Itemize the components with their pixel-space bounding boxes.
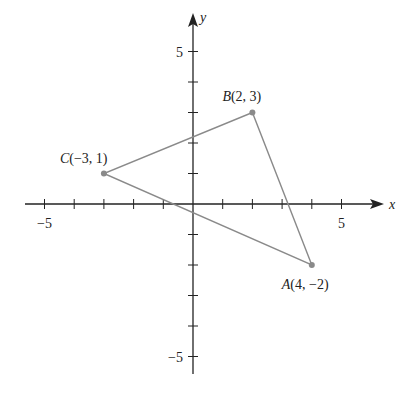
triangle-abc <box>101 110 315 269</box>
point-c <box>101 171 107 177</box>
axes <box>25 13 384 374</box>
x-tick-label-neg5: −5 <box>37 216 52 231</box>
point-label-b: B(2, 3) <box>222 89 261 105</box>
y-tick-label-neg5: −5 <box>168 350 183 365</box>
coordinate-plane: −555−5xyA(4, −2)B(2, 3)C(−3, 1) <box>0 0 412 395</box>
y-tick-label-5: 5 <box>176 45 183 60</box>
point-label-a: A(4, −2) <box>281 277 329 293</box>
x-axis-label: x <box>388 197 396 212</box>
triangle-edges <box>104 113 312 266</box>
x-tick-label-5: 5 <box>338 216 345 231</box>
point-b <box>249 110 255 116</box>
point-label-c: C(−3, 1) <box>60 151 108 167</box>
labels: −555−5xyA(4, −2)B(2, 3)C(−3, 1) <box>37 10 396 365</box>
y-axis-label: y <box>198 10 207 25</box>
point-a <box>309 262 315 268</box>
